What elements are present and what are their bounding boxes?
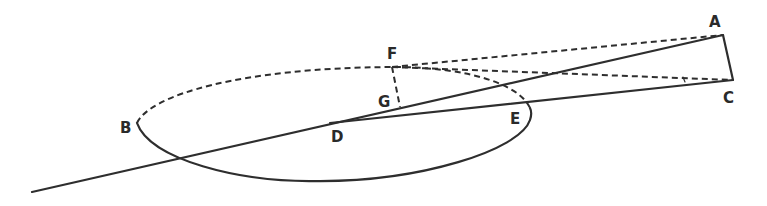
line-to-A (32, 35, 723, 192)
dashed-F-A (392, 35, 723, 67)
label-A: A (709, 13, 721, 31)
label-F: F (387, 45, 397, 63)
label-E: E (510, 110, 520, 128)
geometry-diagram: A B C D E F G (0, 0, 767, 206)
segment-A-C (723, 35, 733, 80)
label-D: D (331, 128, 343, 146)
label-G: G (378, 93, 390, 111)
ellipse-upper-dashed (137, 67, 530, 123)
label-C: C (723, 89, 734, 107)
dashed-F-C (392, 67, 733, 80)
dashed-F-G (392, 67, 400, 107)
label-B: B (120, 119, 131, 137)
